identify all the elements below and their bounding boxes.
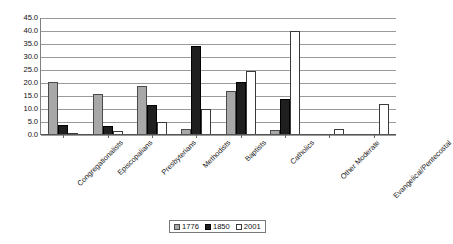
bar-group bbox=[352, 18, 396, 135]
plot-area bbox=[40, 18, 395, 135]
legend-label: 1776 bbox=[182, 222, 199, 231]
bar bbox=[226, 91, 236, 135]
category-label: Methodists bbox=[202, 139, 233, 170]
y-axis-tick-label: 20.0 bbox=[2, 79, 38, 87]
y-axis-tick-label: 45.0 bbox=[2, 14, 38, 22]
bar bbox=[147, 105, 157, 135]
bar-group bbox=[263, 18, 307, 135]
y-axis: 45.040.035.030.025.020.015.010.05.00.0 bbox=[0, 18, 38, 135]
y-axis-tick-label: 15.0 bbox=[2, 92, 38, 100]
bar-group bbox=[174, 18, 218, 135]
bar-group bbox=[307, 18, 351, 135]
y-axis-tick-label: 5.0 bbox=[2, 118, 38, 126]
bar bbox=[191, 46, 201, 135]
bar bbox=[246, 71, 256, 135]
bar bbox=[280, 99, 290, 135]
bar bbox=[290, 31, 300, 135]
y-axis-tick-label: 35.0 bbox=[2, 40, 38, 48]
bar bbox=[93, 94, 103, 135]
bar bbox=[236, 82, 246, 135]
legend-swatch-icon bbox=[174, 224, 180, 230]
category-label: Congregationalists bbox=[76, 139, 125, 188]
legend-swatch-icon bbox=[236, 224, 242, 230]
bar-group bbox=[219, 18, 263, 135]
chart-legend: 177618502001 bbox=[169, 220, 266, 233]
y-axis-tick-label: 10.0 bbox=[2, 105, 38, 113]
bar-group bbox=[85, 18, 129, 135]
bar bbox=[379, 104, 389, 135]
bar bbox=[137, 86, 147, 135]
legend-item: 2001 bbox=[236, 222, 261, 231]
category-label: Presbyterians bbox=[160, 139, 198, 177]
legend-item: 1850 bbox=[205, 222, 230, 231]
y-axis-tick-label: 40.0 bbox=[2, 27, 38, 35]
bar-group bbox=[41, 18, 85, 135]
bar bbox=[201, 109, 211, 135]
category-label: Evangelical/Pentecostal bbox=[392, 139, 453, 200]
legend-label: 2001 bbox=[244, 222, 261, 231]
legend-label: 1850 bbox=[213, 222, 230, 231]
category-label: Baptists bbox=[243, 139, 267, 163]
y-axis-tick-label: 30.0 bbox=[2, 53, 38, 61]
legend-item: 1776 bbox=[174, 222, 199, 231]
y-axis-tick-label: 25.0 bbox=[2, 66, 38, 74]
legend-swatch-icon bbox=[205, 224, 211, 230]
category-axis-labels: CongregationalistsEpiscopaliansPresbyter… bbox=[0, 135, 407, 215]
category-label: Other Moderate bbox=[340, 139, 382, 181]
bar-group bbox=[130, 18, 174, 135]
bar bbox=[48, 82, 58, 135]
category-label: Catholics bbox=[289, 139, 316, 166]
